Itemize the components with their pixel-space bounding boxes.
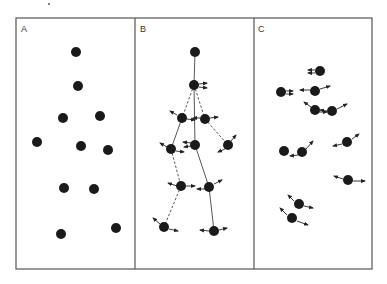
particle-dot	[59, 183, 69, 193]
particle-dot	[297, 147, 307, 157]
motion-arrow-icon	[199, 83, 207, 84]
particle-dot	[95, 111, 105, 121]
solid-bond	[209, 187, 214, 231]
motion-arrow-icon	[333, 144, 342, 146]
motion-arrow-icon	[176, 151, 184, 152]
dashed-bond	[164, 186, 181, 227]
motion-arrow-icon	[153, 218, 160, 224]
particle-dot	[342, 137, 352, 147]
particle-dot	[287, 213, 297, 223]
motion-arrow-icon	[214, 180, 222, 184]
particle-dot	[32, 137, 42, 147]
motion-arrow-icon	[219, 228, 227, 230]
stray-mark	[48, 3, 50, 5]
motion-arrow-icon	[352, 134, 359, 139]
motion-arrow-icon	[184, 146, 191, 147]
motion-arrow-icon	[187, 119, 195, 120]
particle-dot	[279, 146, 289, 156]
dashed-bond	[205, 119, 228, 145]
motion-arrow-icon	[304, 102, 311, 107]
panel-label-b: B	[140, 24, 146, 34]
motion-arrow-icon	[168, 183, 177, 186]
particle-dot	[56, 229, 66, 239]
particle-dot	[294, 199, 304, 209]
motion-arrow-icon	[169, 229, 178, 231]
particle-dot	[58, 113, 68, 123]
motion-arrow-icon	[170, 111, 177, 115]
motion-arrow-icon	[160, 143, 167, 147]
particle-dot	[209, 226, 219, 236]
motion-arrow-icon	[199, 87, 207, 88]
particle-dot	[177, 113, 187, 123]
particle-dot	[89, 184, 99, 194]
particle-dot	[343, 175, 353, 185]
particle-dot	[276, 87, 286, 97]
motion-arrow-icon	[334, 176, 343, 179]
particle-dot	[204, 182, 214, 192]
particle-dot	[189, 80, 199, 90]
motion-arrows	[153, 70, 365, 231]
motion-arrow-icon	[304, 206, 313, 208]
motion-arrow-icon	[297, 221, 308, 225]
diagram-canvas	[0, 0, 387, 284]
motion-arrow-icon	[320, 86, 330, 89]
solid-bond	[194, 85, 195, 145]
particle-dot	[310, 105, 320, 115]
particles	[32, 47, 353, 239]
dashed-bond	[171, 149, 181, 186]
particle-dot	[159, 222, 169, 232]
motion-arrow-icon	[320, 110, 327, 111]
motion-arrow-icon	[200, 230, 209, 231]
particle-dot	[315, 66, 325, 76]
motion-arrow-icon	[306, 141, 313, 149]
motion-arrow-icon	[231, 135, 236, 141]
particle-dot	[310, 86, 320, 96]
motion-arrow-icon	[210, 117, 218, 118]
motion-arrow-icon	[280, 208, 287, 215]
particle-dot	[166, 144, 176, 154]
particle-dot	[327, 106, 337, 116]
particle-dot	[190, 47, 200, 57]
particle-dot	[200, 114, 210, 124]
particle-dot	[111, 223, 121, 233]
solid-bond	[195, 145, 209, 187]
motion-arrow-icon	[218, 149, 225, 152]
particle-dot	[71, 47, 81, 57]
particle-dot	[190, 140, 200, 150]
particle-dot	[176, 181, 186, 191]
particle-dot	[223, 140, 233, 150]
motion-arrow-icon	[337, 104, 347, 109]
motion-arrow-icon	[290, 155, 298, 156]
dashed-bond	[194, 85, 205, 119]
particle-dot	[73, 81, 83, 91]
motion-arrow-icon	[183, 142, 191, 143]
particle-dot	[76, 141, 86, 151]
panel-label-c: C	[258, 24, 265, 34]
dashed-bond	[182, 85, 194, 118]
figure: A B C	[0, 0, 387, 284]
particle-dot	[103, 145, 113, 155]
motion-arrow-icon	[288, 195, 294, 201]
panel-label-a: A	[21, 24, 27, 34]
